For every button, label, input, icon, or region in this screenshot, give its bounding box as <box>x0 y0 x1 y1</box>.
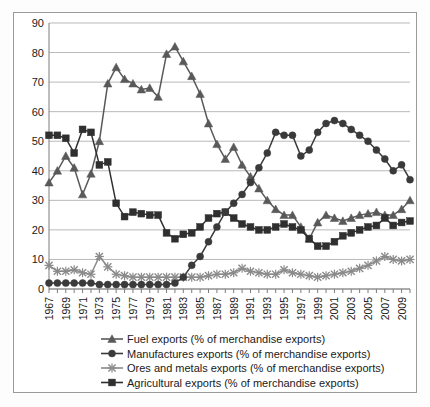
data-point <box>155 212 162 219</box>
data-point <box>171 280 178 287</box>
data-point <box>130 209 137 216</box>
x-axis-tick-label: 1969 <box>60 297 72 321</box>
data-point <box>79 280 86 287</box>
data-point <box>96 281 103 288</box>
data-point <box>381 215 388 222</box>
legend-item[interactable]: Manufactures exports (% of merchandise e… <box>101 348 370 360</box>
data-point <box>62 280 69 287</box>
data-point <box>238 161 246 169</box>
data-point <box>381 155 388 162</box>
x-axis-tick-label: 1975 <box>110 297 122 321</box>
x-axis-tick-label: 1997 <box>295 297 307 321</box>
y-axis-tick-label: 20 <box>32 224 44 236</box>
data-point <box>112 63 120 71</box>
data-point <box>138 281 145 288</box>
data-point <box>204 119 212 127</box>
data-point <box>172 235 179 242</box>
chart-screenshot: 0102030405060708090196719691971197319751… <box>0 0 430 407</box>
y-axis-tick-label: 10 <box>32 253 44 265</box>
data-point <box>297 153 304 160</box>
data-point <box>62 152 70 160</box>
data-point <box>348 229 355 236</box>
data-point <box>79 126 86 133</box>
legend-item[interactable]: Fuel exports (% of merchandise exports) <box>101 333 325 345</box>
legend-item[interactable]: Ores and metals exports (% of merchandis… <box>101 362 384 374</box>
series-line <box>49 129 410 246</box>
data-point <box>365 224 372 231</box>
data-point <box>121 281 128 288</box>
x-axis-tick-label: 1995 <box>278 297 290 321</box>
x-axis-tick-label: 1971 <box>77 297 89 321</box>
data-point <box>88 129 95 136</box>
x-axis-tick-label: 2005 <box>362 297 374 321</box>
data-point <box>281 132 288 139</box>
data-point <box>46 280 53 287</box>
data-point <box>247 179 254 186</box>
data-point <box>390 167 397 174</box>
data-point <box>71 280 78 287</box>
data-point <box>46 132 53 139</box>
data-point <box>339 120 346 127</box>
data-point <box>188 229 195 236</box>
data-point <box>205 215 212 222</box>
data-point <box>78 190 86 198</box>
data-point <box>356 226 363 233</box>
x-axis-tick-label: 1967 <box>43 297 55 321</box>
data-point <box>163 281 170 288</box>
y-axis-tick-label: 90 <box>32 17 44 29</box>
data-point <box>339 232 346 239</box>
legend-item[interactable]: Agricultural exports (% of merchandise e… <box>101 377 359 389</box>
data-point <box>255 164 262 171</box>
data-point <box>104 79 112 87</box>
x-axis-tick-label: 1973 <box>93 297 105 321</box>
data-point <box>407 218 414 225</box>
data-point <box>188 262 195 269</box>
y-axis-tick-label: 40 <box>32 165 44 177</box>
data-point <box>222 209 229 216</box>
data-point <box>62 135 69 142</box>
x-axis-tick-label: 2009 <box>396 297 408 321</box>
data-point <box>373 147 380 154</box>
data-point <box>323 243 330 250</box>
data-point <box>155 281 162 288</box>
legend-label: Agricultural exports (% of merchandise e… <box>127 377 359 389</box>
chart-frame: 0102030405060708090196719691971197319751… <box>13 12 417 393</box>
data-point <box>188 72 196 80</box>
data-point <box>239 191 246 198</box>
series-triangle <box>45 42 414 242</box>
data-point <box>113 200 120 207</box>
x-axis-tick-label: 2001 <box>328 297 340 321</box>
data-point <box>96 161 103 168</box>
data-point <box>104 281 111 288</box>
data-point <box>407 176 414 183</box>
data-point <box>323 120 330 127</box>
data-point <box>239 221 246 228</box>
data-point <box>306 235 313 242</box>
x-axis-tick-label: 1989 <box>228 297 240 321</box>
data-point <box>163 229 170 236</box>
data-point <box>146 212 153 219</box>
data-point <box>356 132 363 139</box>
data-point <box>109 350 116 357</box>
data-point <box>398 219 405 226</box>
x-axis-tick-label: 1993 <box>261 297 273 321</box>
x-axis-tick-label: 2007 <box>379 297 391 321</box>
data-point <box>348 126 355 133</box>
data-point <box>331 238 338 245</box>
series-x <box>45 252 415 282</box>
data-point <box>372 208 380 216</box>
data-point <box>113 281 120 288</box>
data-point <box>331 117 338 124</box>
data-point <box>264 226 271 233</box>
data-point <box>390 222 397 229</box>
y-axis-tick-label: 50 <box>32 135 44 147</box>
data-point <box>171 42 179 50</box>
y-axis-tick-label: 0 <box>38 283 44 295</box>
data-point <box>87 280 94 287</box>
plot-area: 0102030405060708090196719691971197319751… <box>14 13 416 329</box>
legend-label: Ores and metals exports (% of merchandis… <box>127 362 384 374</box>
data-point <box>205 238 212 245</box>
data-point <box>314 243 321 250</box>
data-point <box>306 147 313 154</box>
x-axis-tick-label: 1983 <box>177 297 189 321</box>
